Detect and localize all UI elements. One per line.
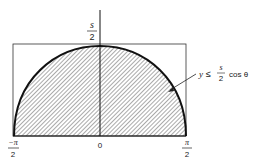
svg-text:cos θ: cos θ (229, 70, 249, 79)
svg-text:2: 2 (185, 150, 190, 159)
x-tick-neg-pi-over-2: −π 2 (8, 138, 19, 159)
svg-text:y: y (198, 69, 203, 79)
pointer-arrow (170, 74, 196, 90)
svg-text:π: π (185, 138, 190, 147)
svg-text:s: s (219, 63, 222, 72)
svg-text:≤: ≤ (206, 69, 211, 79)
x-tick-pi-over-2: π 2 (182, 138, 192, 159)
svg-text:2: 2 (219, 74, 224, 83)
x-tick-zero: 0 (98, 141, 103, 150)
half-cosine-region-diagram: s 2 −π 2 0 π 2 y ≤ s 2 cos θ (0, 0, 256, 163)
svg-text:s: s (90, 19, 94, 30)
svg-text:2: 2 (11, 150, 16, 159)
svg-text:2: 2 (89, 32, 94, 42)
y-axis-label: s 2 (87, 19, 97, 42)
svg-text:−π: −π (8, 138, 18, 147)
region-label: y ≤ s 2 cos θ (168, 63, 249, 92)
